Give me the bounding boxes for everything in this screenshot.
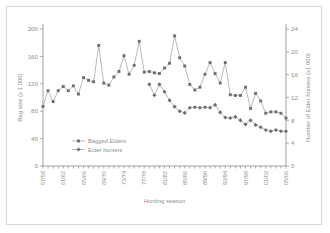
data-point-eider-hunters <box>228 116 232 120</box>
data-point-bagged-eiders <box>285 117 288 120</box>
data-point-bagged-eiders <box>112 76 115 79</box>
data-point-bagged-eiders <box>168 62 171 65</box>
data-point-bagged-eiders <box>133 64 136 67</box>
right-axis-tick-label: 20 <box>291 48 298 55</box>
svg-text:77/78: 77/78 <box>141 171 147 185</box>
data-point-eider-hunters <box>152 93 156 97</box>
data-point-bagged-eiders <box>62 85 65 88</box>
x-axis-tick-label: 85/86 <box>182 171 188 185</box>
data-point-bagged-eiders <box>143 71 146 74</box>
data-point-bagged-eiders <box>107 84 110 87</box>
data-point-bagged-eiders <box>52 100 55 103</box>
legend-item-bagged-eiders: Bagged Eiders <box>72 138 126 144</box>
data-point-eider-hunters <box>198 106 202 110</box>
data-point-bagged-eiders <box>82 76 85 79</box>
data-point-bagged-eiders <box>173 34 176 37</box>
legend-label: Eider hunters <box>88 147 123 153</box>
data-point-bagged-eiders <box>204 73 207 76</box>
data-point-bagged-eiders <box>264 112 267 115</box>
right-axis-title: Number of Eider hunters (x1 000) <box>305 53 311 142</box>
data-point-bagged-eiders <box>67 89 70 92</box>
data-point-bagged-eiders <box>123 54 126 57</box>
x-axis-tick-label: 01/02 <box>263 171 269 185</box>
series-line-bagged-eiders <box>43 36 286 118</box>
svg-text:05/06: 05/06 <box>283 171 289 185</box>
data-point-bagged-eiders <box>259 99 262 102</box>
data-point-eider-hunters <box>269 129 273 133</box>
data-point-bagged-eiders <box>158 72 161 75</box>
data-point-bagged-eiders <box>269 110 272 113</box>
left-axis-title: Bag size (x 1 000) <box>17 73 23 121</box>
data-point-bagged-eiders <box>47 89 50 92</box>
data-point-eider-hunters <box>259 125 263 129</box>
x-axis-tick-label: 05/06 <box>283 171 289 185</box>
svg-text:Bag size (x 1 000): Bag size (x 1 000) <box>17 73 23 121</box>
data-point-eider-hunters <box>233 115 237 119</box>
x-axis-tick-label: 81/82 <box>162 171 168 185</box>
data-point-bagged-eiders <box>163 67 166 70</box>
x-axis-tick-label: 77/78 <box>141 171 147 185</box>
data-point-bagged-eiders <box>117 70 120 73</box>
data-point-bagged-eiders <box>178 56 181 59</box>
data-point-eider-hunters <box>193 105 197 109</box>
left-axis-tick-label: 200 <box>28 25 39 32</box>
data-point-bagged-eiders <box>254 92 257 95</box>
svg-text:01/02: 01/02 <box>263 171 269 185</box>
svg-text:65/66: 65/66 <box>81 171 87 185</box>
x-axis-tick-label: 65/66 <box>81 171 87 185</box>
x-axis-title: Hunting season <box>144 198 186 204</box>
x-axis-tick-label: 57/58 <box>40 171 46 185</box>
data-point-bagged-eiders <box>138 40 141 43</box>
svg-text:93/94: 93/94 <box>222 171 228 185</box>
data-point-bagged-eiders <box>92 80 95 83</box>
right-axis-tick-label: 16 <box>291 71 298 78</box>
left-axis-tick-label: 80 <box>31 107 38 114</box>
data-point-bagged-eiders <box>219 82 222 85</box>
data-point-bagged-eiders <box>224 61 227 64</box>
x-axis-tick-label: 61/62 <box>60 171 66 185</box>
data-point-bagged-eiders <box>244 86 247 89</box>
data-point-bagged-eiders <box>97 44 100 47</box>
legend-marker-diamond <box>76 147 80 151</box>
left-axis-tick-label: 160 <box>28 53 39 60</box>
right-axis-tick-label: 0 <box>291 162 295 169</box>
x-axis-tick-label: 69/70 <box>101 171 107 185</box>
right-axis-tick-label: 4 <box>291 139 295 146</box>
data-point-bagged-eiders <box>229 93 232 96</box>
data-point-eider-hunters <box>279 129 283 133</box>
data-point-eider-hunters <box>162 90 166 94</box>
data-point-eider-hunters <box>274 128 278 132</box>
data-point-bagged-eiders <box>188 83 191 86</box>
data-point-eider-hunters <box>264 128 268 132</box>
data-point-bagged-eiders <box>148 70 151 73</box>
x-axis-tick-label: 93/94 <box>222 171 228 185</box>
left-axis-tick-label: 0 <box>35 162 39 169</box>
data-point-bagged-eiders <box>214 72 217 75</box>
x-axis-tick-label: 89/90 <box>202 171 208 185</box>
svg-text:61/62: 61/62 <box>60 171 66 185</box>
data-point-bagged-eiders <box>153 71 156 74</box>
data-point-bagged-eiders <box>193 89 196 92</box>
data-point-bagged-eiders <box>87 79 90 82</box>
data-point-eider-hunters <box>213 103 217 107</box>
data-point-eider-hunters <box>208 106 212 110</box>
data-point-bagged-eiders <box>198 86 201 89</box>
svg-text:73/74: 73/74 <box>121 171 127 185</box>
data-point-eider-hunters <box>203 105 207 109</box>
x-axis-tick-label: 97/98 <box>243 171 249 185</box>
data-point-bagged-eiders <box>209 61 212 64</box>
data-point-bagged-eiders <box>72 84 75 87</box>
data-point-eider-hunters <box>284 129 288 133</box>
legend-item-eider-hunters: Eider hunters <box>72 147 123 153</box>
data-point-bagged-eiders <box>249 107 252 110</box>
svg-text:85/86: 85/86 <box>182 171 188 185</box>
right-axis-tick-label: 12 <box>291 94 298 101</box>
data-point-bagged-eiders <box>279 112 282 115</box>
svg-text:97/98: 97/98 <box>243 171 249 185</box>
right-axis-tick-label: 8 <box>291 117 295 124</box>
data-point-bagged-eiders <box>234 94 237 97</box>
svg-text:81/82: 81/82 <box>162 171 168 185</box>
data-point-bagged-eiders <box>274 110 277 113</box>
legend-label: Bagged Eiders <box>88 138 126 144</box>
chart-figure: 040801201602000481216202457/5861/6265/66… <box>0 0 330 233</box>
